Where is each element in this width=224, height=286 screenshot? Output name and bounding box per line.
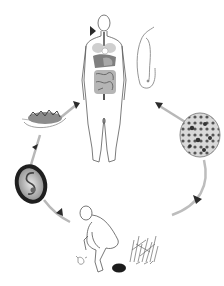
truncated-caption [0, 281, 224, 286]
egg-mass [180, 113, 220, 157]
diagram-canvas [0, 0, 224, 286]
squatting-person [80, 206, 118, 272]
contaminated-food-plate [22, 110, 66, 128]
arrow-egg-to-food [30, 135, 40, 168]
arrow-defecation-to-egg [44, 200, 70, 222]
vegetation [130, 236, 158, 264]
arrow-food-to-host [60, 105, 76, 118]
small-debris [76, 256, 87, 264]
arrowhead-icon [90, 26, 96, 36]
feces-icon [112, 264, 126, 273]
arrow-eggmass-to-defecation [172, 160, 206, 215]
life-cycle-diagram [0, 0, 224, 286]
host-internal-organs [92, 32, 116, 100]
adult-worm [137, 27, 155, 88]
